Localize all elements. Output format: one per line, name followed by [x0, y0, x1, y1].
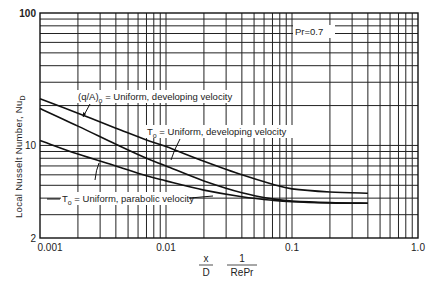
svg-text:x: x [204, 253, 209, 264]
x-tick-label: 0.001 [37, 242, 62, 253]
pr-label: Pr=0.7 [295, 26, 323, 37]
y-tick-label: 2 [30, 233, 36, 244]
x-tick-label: 0.01 [156, 242, 176, 253]
y-axis-title: Local Nusselt Number, NuD [13, 95, 26, 218]
svg-text:1: 1 [239, 253, 245, 264]
y-tick-label: 10 [25, 140, 37, 151]
x-tick-label: 0.1 [285, 242, 299, 253]
svg-text:D: D [202, 267, 209, 278]
nusselt-chart: 0.0010.010.11.0210100 Local Nusselt Numb… [0, 0, 430, 285]
x-axis-title: x D 1 RePr [199, 253, 257, 278]
y-tick-label: 100 [19, 8, 36, 19]
x-tick-label: 1.0 [411, 242, 425, 253]
svg-text:RePr: RePr [231, 267, 254, 278]
